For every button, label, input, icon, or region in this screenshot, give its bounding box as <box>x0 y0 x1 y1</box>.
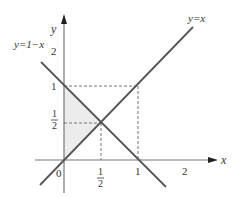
y-tick-1: 1 <box>51 80 57 92</box>
x-tick-half-num: 1 <box>98 166 103 177</box>
y-axis-label: y <box>50 22 57 36</box>
y-tick-2: 2 <box>51 45 57 57</box>
y-tick-half-num: 1 <box>52 108 57 119</box>
origin-label: 0 <box>56 167 62 179</box>
label-y-equals-x: y=x <box>187 12 205 24</box>
y-tick-half: 1 2 <box>51 108 58 131</box>
y-tick-half-den: 2 <box>52 120 57 131</box>
line-y-equals-x <box>40 27 193 185</box>
x-tick-half: 1 2 <box>97 166 104 189</box>
y-axis-arrow-icon <box>61 14 67 24</box>
function-graph: y=x y=1−x y x 0 2 1 1 2 1 2 1 2 <box>0 0 235 198</box>
x-axis-label: x <box>220 153 227 167</box>
x-tick-2: 2 <box>182 165 188 177</box>
x-tick-1: 1 <box>135 165 141 177</box>
x-axis-arrow-icon <box>208 157 218 163</box>
x-tick-half-den: 2 <box>98 178 103 189</box>
label-y-equals-1-minus-x: y=1−x <box>13 38 44 50</box>
